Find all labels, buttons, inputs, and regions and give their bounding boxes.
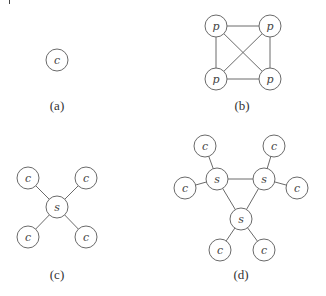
node-label: p (266, 20, 273, 33)
node-c: c (194, 135, 216, 157)
panel-label-b: (b) (234, 98, 249, 113)
node-c: c (209, 239, 231, 261)
node-label: s (238, 213, 244, 226)
node-label: p (266, 73, 273, 86)
node-label: s (261, 173, 267, 186)
node-label: c (294, 182, 300, 195)
node-c: c (75, 226, 97, 248)
panel-label-d: (d) (233, 267, 248, 282)
node-label: c (217, 244, 223, 257)
panel-b: pppp(b) (205, 15, 281, 113)
node-label: c (54, 54, 60, 67)
node-s: s (253, 168, 275, 190)
node-c: c (263, 135, 285, 157)
node-label: c (83, 172, 89, 185)
panel-label-c: (c) (50, 267, 64, 282)
node-label: s (214, 173, 220, 186)
node-label: s (54, 201, 60, 214)
node-label: p (212, 20, 219, 33)
node-c: c (46, 49, 68, 71)
panel-label-a: (a) (50, 98, 64, 113)
node-c: c (253, 239, 275, 261)
node-c: c (174, 177, 196, 199)
node-s: s (206, 168, 228, 190)
node-c: c (17, 226, 39, 248)
node-s: s (46, 196, 68, 218)
node-s: s (230, 208, 252, 230)
node-p: p (259, 68, 281, 90)
node-c: c (286, 177, 308, 199)
node-p: p (205, 15, 227, 37)
node-label: c (83, 231, 89, 244)
node-label: c (202, 140, 208, 153)
node-label: c (271, 140, 277, 153)
node-label: c (25, 231, 31, 244)
node-p: p (259, 15, 281, 37)
panel-d: ssscccccc(d) (174, 135, 308, 282)
node-label: c (25, 172, 31, 185)
network-topology-diagram: c(a)pppp(b)scccc(c)ssscccccc(d) (0, 0, 326, 296)
node-p: p (205, 68, 227, 90)
panel-c: scccc(c) (17, 167, 97, 282)
node-label: p (212, 73, 219, 86)
panel-a: c(a) (46, 49, 68, 113)
node-label: c (182, 182, 188, 195)
node-c: c (17, 167, 39, 189)
node-label: c (261, 244, 267, 257)
node-c: c (75, 167, 97, 189)
